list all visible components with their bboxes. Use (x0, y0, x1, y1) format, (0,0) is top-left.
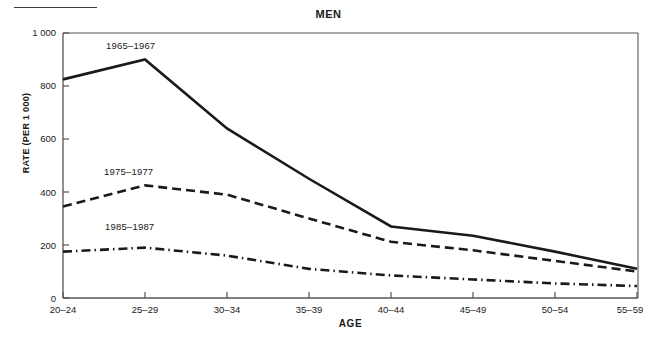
series-line-1975-1977 (63, 185, 637, 271)
plot-area (0, 0, 657, 337)
y-axis-ticks (63, 33, 69, 298)
axis-frame (63, 33, 638, 298)
chart-page: MEN RATE (PER 1 000) AGE 1 000 800 600 4… (0, 0, 657, 337)
series-line-1965-1967 (63, 60, 637, 269)
series-line-1985-1987 (63, 248, 637, 286)
x-axis-ticks (63, 292, 637, 298)
